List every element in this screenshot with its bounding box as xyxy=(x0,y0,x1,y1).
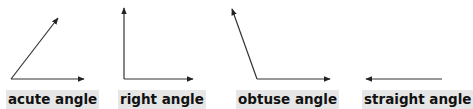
right-angle-label: right angle xyxy=(118,90,206,109)
right-angle-drawing xyxy=(124,8,193,79)
obtuse-ray-slanted-arrow xyxy=(232,9,257,79)
straight-angle-label: straight angle xyxy=(362,90,473,109)
obtuse-angle-label: obtuse angle xyxy=(236,90,339,109)
acute-ray-diagonal-arrow xyxy=(11,18,58,79)
obtuse-angle-drawing xyxy=(232,9,330,79)
acute-angle-label: acute angle xyxy=(6,90,99,109)
acute-angle-drawing xyxy=(11,18,84,79)
